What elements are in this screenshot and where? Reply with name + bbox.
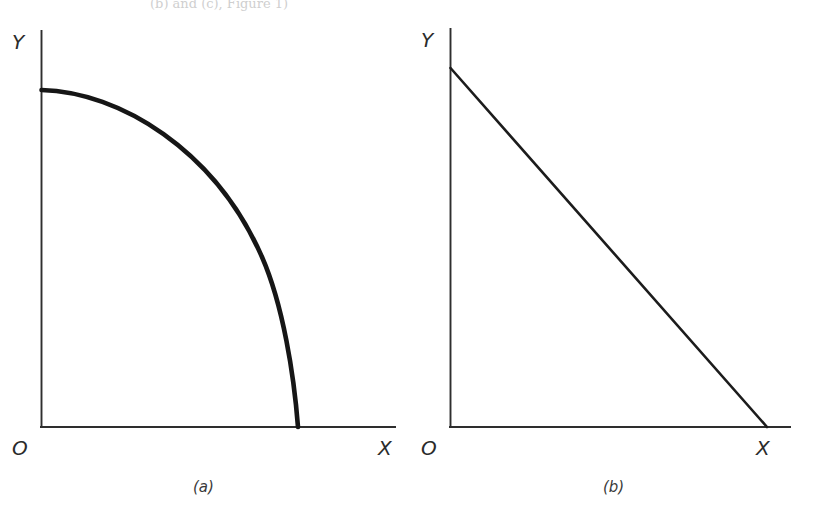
panel-a-caption: (a) (193, 478, 214, 496)
panel-a-origin-label: O (12, 436, 28, 460)
panel-b-frontier-line (451, 68, 768, 427)
panel-b-origin-label: O (421, 436, 437, 460)
figure-root: (b) and (c), Figure 1) Y O X (a) Y O (0, 0, 819, 511)
panel-b: Y O X (b) (421, 28, 791, 496)
panel-b-caption: (b) (603, 478, 624, 496)
cropped-header-text: (b) and (c), Figure 1) (150, 0, 288, 11)
panel-b-y-axis-label: Y (421, 28, 435, 52)
panel-b-x-axis-label: X (755, 436, 771, 460)
panel-a-frontier-curve (42, 90, 299, 427)
figure-canvas: (b) and (c), Figure 1) Y O X (a) Y O (0, 0, 819, 511)
panel-a-y-axis-label: Y (12, 30, 26, 54)
panel-a: Y O X (a) (12, 30, 396, 496)
panel-a-x-axis-label: X (377, 436, 393, 460)
